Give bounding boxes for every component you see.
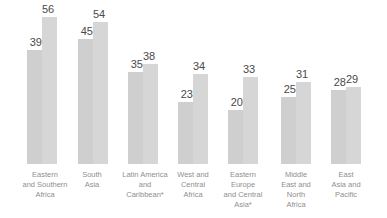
bar-series2[interactable]: 56 [42,17,57,164]
category-label: East Asia and Pacific [316,170,376,200]
category-label-line: Africa [2,190,88,200]
bar-group: 20 33 [228,0,258,164]
bar-series2[interactable]: 31 [296,82,311,164]
bar-series1[interactable]: 39 [27,50,42,164]
bar-series2[interactable]: 38 [143,64,158,164]
bar-group: 39 56 [27,0,57,164]
category-label-line: East [316,170,376,180]
bar-series1[interactable]: 45 [78,39,93,164]
bar-pair: 25 31 [281,0,311,164]
bar-value-label: 34 [193,60,205,74]
bar-value-label: 23 [181,88,193,102]
bar-value-label: 28 [334,76,346,90]
category-label-line: Pacific [316,190,376,200]
bar-pair: 35 38 [128,0,158,164]
bar-value-label: 29 [346,73,358,87]
bar-pair: 20 33 [228,0,258,164]
bar-value-label: 39 [30,36,42,50]
bar-series1[interactable]: 20 [228,110,243,164]
bar-value-label: 45 [81,25,93,39]
bar-value-label: 33 [243,63,255,77]
bar-value-label: 38 [143,50,155,64]
bar-series1[interactable]: 35 [128,72,143,164]
bar-value-label: 56 [42,3,54,17]
category-axis: Eastern and Southern Africa South Asia L… [0,164,387,218]
bar-pair: 28 29 [331,0,361,164]
bar-series1[interactable]: 23 [178,102,193,164]
category-label-line: Asia and [316,180,376,190]
bar-value-label: 35 [131,58,143,72]
bar-series2[interactable]: 54 [93,22,108,164]
plot-area: 39 56 45 54 35 [0,0,387,164]
bar-value-label: 31 [296,68,308,82]
bar-group: 45 54 [78,0,108,164]
bar-series1[interactable]: 25 [281,97,296,164]
bar-series1[interactable]: 28 [331,90,346,164]
bar-pair: 39 56 [27,0,57,164]
bar-value-label: 25 [284,83,296,97]
category-label-line: Africa [266,200,326,210]
bar-pair: 23 34 [178,0,208,164]
bar-group: 35 38 [128,0,158,164]
bar-group: 23 34 [178,0,208,164]
bar-series2[interactable]: 34 [193,74,208,164]
bar-chart: 39 56 45 54 35 [0,0,387,218]
bar-pair: 45 54 [78,0,108,164]
bar-group: 25 31 [281,0,311,164]
bar-value-label: 54 [93,8,105,22]
bar-series2[interactable]: 33 [243,77,258,164]
bar-value-label: 20 [231,96,243,110]
bar-series2[interactable]: 29 [346,87,361,164]
bar-group: 28 29 [331,0,361,164]
